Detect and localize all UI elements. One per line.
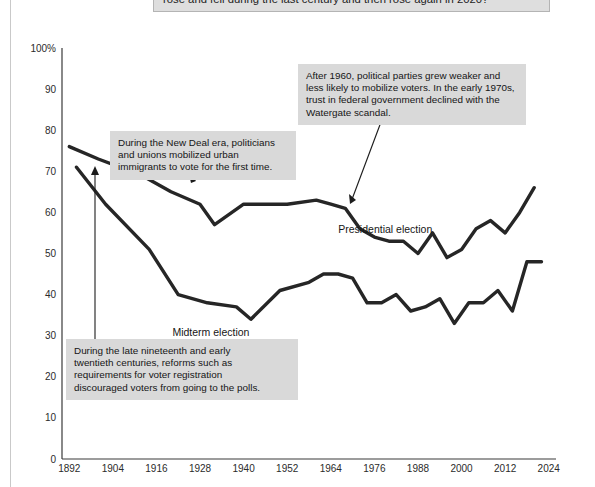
leader-arrow-reforms (91, 166, 99, 175)
y-tick-label: 0 (50, 454, 56, 465)
series-line-midterm-election (77, 167, 542, 323)
chart-page: rose and fell during the last century an… (0, 0, 595, 487)
y-tick-label: 80 (45, 125, 57, 136)
annotation-line: and unions mobilized urban (118, 149, 288, 161)
y-tick-label: 40 (45, 289, 57, 300)
annotation-line: Watergate scandal. (306, 107, 518, 119)
y-tick-label: 70 (45, 166, 57, 177)
x-tick-label: 1964 (320, 463, 343, 474)
annotation-line: twentieth centuries, reforms such as (74, 357, 290, 369)
x-tick-label: 1904 (102, 463, 125, 474)
y-tick-label: 100% (30, 43, 56, 54)
annotation-line: During the late nineteenth and early (74, 345, 290, 357)
annotation-new-deal: During the New Deal era, politiciansand … (110, 131, 296, 180)
y-tick-label: 60 (45, 207, 57, 218)
x-tick-label: 1892 (58, 463, 81, 474)
x-tick-label: 2012 (494, 463, 517, 474)
annotation-after-1960: After 1960, political parties grew weake… (298, 64, 526, 125)
x-tick-label: 1940 (232, 463, 255, 474)
y-axis-tick-labels: 0102030405060708090100% (30, 43, 56, 465)
y-tick-label: 20 (45, 371, 57, 382)
annotation-line: After 1960, political parties grew weake… (306, 70, 518, 82)
x-tick-label: 1952 (276, 463, 299, 474)
x-tick-label: 2000 (450, 463, 473, 474)
annotation-line: discouraged voters from going to the pol… (74, 382, 290, 394)
x-tick-label: 1988 (407, 463, 430, 474)
y-tick-label: 50 (45, 248, 57, 259)
x-tick-label: 1976 (363, 463, 386, 474)
annotation-line: less likely to mobilize voters. In the e… (306, 82, 518, 94)
y-tick-label: 30 (45, 330, 57, 341)
annotation-line: immigrants to vote for the first time. (118, 161, 288, 173)
x-tick-label: 1916 (145, 463, 168, 474)
annotation-reforms: During the late nineteenth and earlytwen… (66, 339, 298, 400)
annotation-line: requirements for voter registration (74, 369, 290, 381)
y-tick-label: 10 (45, 412, 57, 423)
x-axis-tick-labels: 1892190419161928194019521964197619882000… (58, 463, 560, 474)
series-label-midterm-election: Midterm election (172, 326, 249, 338)
x-tick-label: 2024 (538, 463, 561, 474)
series-label-presidential-election: Presidential election (338, 223, 432, 235)
y-tick-label: 90 (45, 84, 57, 95)
leader-line-after1960 (351, 122, 381, 202)
x-tick-label: 1928 (189, 463, 212, 474)
annotation-line: During the New Deal era, politicians (118, 137, 288, 149)
annotation-line: trust in federal government declined wit… (306, 94, 518, 106)
leader-arrow-after1960 (349, 194, 356, 204)
